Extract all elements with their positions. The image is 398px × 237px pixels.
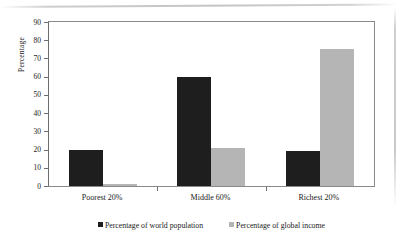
- bar-income: [103, 184, 137, 186]
- bar-income: [211, 148, 245, 186]
- x-axis-category-label: Middle 60%: [156, 193, 264, 202]
- legend-label: Percentage of world population: [105, 221, 203, 230]
- y-axis-tick-label: 30: [34, 126, 42, 137]
- y-axis-tick-label: 90: [34, 17, 42, 28]
- plot-area: [49, 22, 374, 186]
- bar-population: [69, 150, 103, 186]
- chart-figure: Percentage 9080706050403020100 Poorest 2…: [0, 0, 398, 237]
- legend-label: Percentage of global income: [236, 221, 325, 230]
- y-axis-tick-label: 70: [34, 53, 42, 64]
- bar-income: [320, 49, 354, 186]
- y-axis-ticks: 9080706050403020100: [0, 21, 48, 187]
- y-axis-tick-label: 50: [34, 89, 42, 100]
- legend-swatch-icon: [98, 222, 103, 227]
- y-axis-tick-label: 80: [34, 35, 42, 46]
- y-axis-tick-label: 20: [34, 144, 42, 155]
- y-axis-tick-label: 10: [34, 162, 42, 173]
- legend-item: Percentage of global income: [229, 221, 325, 230]
- chart-legend: Percentage of world populationPercentage…: [48, 218, 375, 232]
- bar-population: [177, 77, 211, 186]
- bar-group: [49, 22, 157, 186]
- bar-group: [157, 22, 265, 186]
- bar-group: [266, 22, 374, 186]
- x-axis-category-label: Poorest 20%: [48, 193, 156, 202]
- page-edge-top-artifact: [0, 4, 398, 8]
- legend-swatch-icon: [229, 222, 234, 227]
- bar-population: [286, 151, 320, 186]
- x-axis-divider: [157, 187, 158, 191]
- page-edge-right-artifact: [394, 8, 396, 208]
- x-axis-divider: [266, 187, 267, 191]
- y-axis-tick-label: 40: [34, 108, 42, 119]
- x-axis-category-label: Richest 20%: [265, 193, 373, 202]
- x-axis-labels: Poorest 20%Middle 60%Richest 20%: [48, 193, 375, 207]
- y-axis-tick-label: 60: [34, 71, 42, 82]
- y-axis-tick-label: 0: [37, 181, 41, 192]
- plot-frame: [48, 21, 375, 187]
- legend-item: Percentage of world population: [98, 221, 203, 230]
